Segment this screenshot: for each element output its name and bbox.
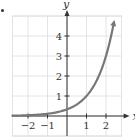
y-tick-label: 3	[56, 51, 62, 62]
y-tick-label: 1	[56, 91, 62, 102]
x-tick-label: 2	[103, 120, 109, 131]
x-axis-arrow-icon	[124, 114, 130, 119]
exponential-chart: xy−2−1121234	[0, 0, 135, 140]
y-tick-label: 4	[56, 31, 62, 42]
x-tick-label: −2	[21, 120, 36, 131]
curve-arrow-icon	[110, 20, 116, 26]
y-tick-label: 2	[56, 71, 62, 82]
y-axis-label: y	[62, 0, 70, 11]
x-tick-label: −1	[40, 120, 55, 131]
x-axis-label: x	[133, 110, 135, 123]
x-tick-label: 1	[83, 120, 89, 131]
